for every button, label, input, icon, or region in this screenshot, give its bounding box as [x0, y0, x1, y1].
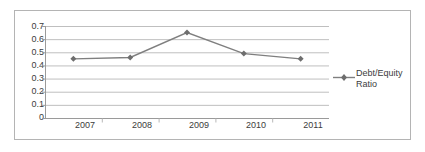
- legend-label: Debt/Equity Ratio: [356, 68, 412, 90]
- chart-container: 0.7 0.6 0.5 0.4 0.3 0.2 0.1 0 2007 2008 …: [14, 10, 411, 140]
- x-axis: 2007 2008 2009 2010 2011: [45, 121, 329, 139]
- x-axis-tick-label: 2010: [232, 121, 280, 130]
- chart-legend: Debt/Equity Ratio: [333, 63, 411, 93]
- legend-label-line2: Ratio: [356, 79, 377, 89]
- data-point-marker: [298, 56, 304, 62]
- data-series-line: [70, 30, 303, 62]
- x-axis-tick-label: 2008: [118, 121, 166, 130]
- x-axis-tick-label: 2011: [289, 121, 337, 130]
- data-point-marker: [184, 30, 190, 36]
- x-axis-tick-label: 2009: [175, 121, 223, 130]
- legend-marker-icon: [333, 73, 355, 82]
- gridlines: [45, 27, 329, 119]
- plot-area-wrapper: 0.7 0.6 0.5 0.4 0.3 0.2 0.1 0 2007 2008 …: [15, 11, 412, 141]
- series-line: [73, 33, 300, 59]
- x-axis-tick-label: 2007: [61, 121, 109, 130]
- data-point-marker: [70, 56, 76, 62]
- axis-lines: [42, 26, 329, 123]
- legend-label-line1: Debt/Equity: [356, 68, 403, 78]
- data-point-marker: [127, 55, 133, 61]
- data-point-marker: [241, 51, 247, 57]
